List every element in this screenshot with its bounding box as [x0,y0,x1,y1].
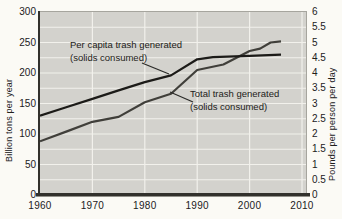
annotation-text-line: (solids consumed) [70,52,182,65]
y-right-tick-label: 6 [312,6,342,17]
plot-area: Per capita trash generated(solids consum… [40,11,307,195]
y-right-tick-label: 3 [312,98,342,109]
y-right-tick-label: 2 [312,128,342,139]
annotation-text-line: (solids consumed) [190,101,279,114]
y-left-tick-label: 50 [2,159,36,170]
x-axis-line [36,193,310,197]
annotation-per-capita: Per capita trash generated(solids consum… [70,39,182,64]
y-right-tick-label: 3.5 [312,82,342,93]
y-right-tick-label: 4.5 [312,52,342,63]
y-right-tick-label: 2.5 [312,113,342,124]
annotation-text-line: Total trash generated [190,88,279,101]
x-tick-label: 1970 [77,200,107,211]
y-axis-left-title: Billion tons per year [4,79,14,162]
y-right-tick-label: 1.5 [312,143,342,154]
annotation-leader-line [142,63,169,74]
chart-root: Billion tons per year Pounds per person … [0,0,342,219]
y-left-tick-label: 0 [2,189,36,200]
y-right-tick-label: 5 [312,37,342,48]
y-left-tick-label: 300 [2,6,36,17]
y-right-tick-label: 1 [312,159,342,170]
y-left-tick-label: 150 [2,98,36,109]
x-tick-label: 1980 [130,200,160,211]
y-right-tick-label: 5.5 [312,21,342,32]
annotation-text-line: Per capita trash generated [70,39,182,52]
y-axis-line [38,11,40,195]
y-right-tick-label: 4 [312,67,342,78]
x-tick-label: 1960 [25,200,55,211]
x-tick-label: 1990 [182,200,212,211]
y-left-tick-label: 200 [2,67,36,78]
y-left-tick-label: 100 [2,128,36,139]
y-right-tick-label: 0.5 [312,174,342,185]
y-right-tick-label: 0 [312,189,342,200]
x-tick-label: 2010 [287,200,317,211]
y-left-tick-label: 250 [2,37,36,48]
x-tick-label: 2000 [235,200,265,211]
annotation-total: Total trash generated(solids consumed) [190,88,279,113]
